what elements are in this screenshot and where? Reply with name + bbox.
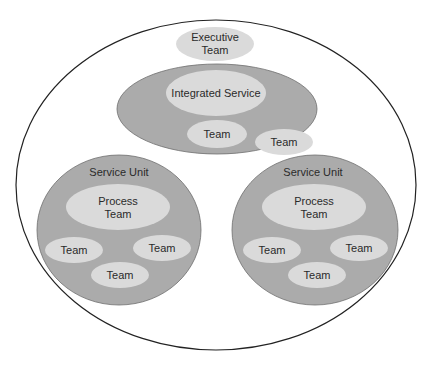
integrated-team-overlap-label: Team (271, 136, 298, 148)
service-unit-left-label: Service Unit (89, 166, 148, 178)
process-team-left-line2: Team (105, 208, 132, 220)
process-team-right-line1: Process (294, 195, 334, 207)
team-left-3-label: Team (107, 269, 134, 281)
team-left-2-label: Team (149, 242, 176, 254)
process-team-left (66, 184, 170, 230)
team-right-1-label: Team (259, 244, 286, 256)
process-team-right-line2: Team (301, 208, 328, 220)
team-right-2-label: Team (346, 242, 373, 254)
executive-team: Executive Team (176, 27, 254, 61)
integrated-team-inner-label: Team (204, 128, 231, 140)
team-right-3-label: Team (304, 269, 331, 281)
process-team-right (262, 184, 366, 230)
executive-team-label-line2: Team (202, 44, 229, 56)
integrated-service-label: Integrated Service (171, 87, 260, 99)
executive-team-label-line1: Executive (191, 31, 239, 43)
integrated-service-group: Integrated Service Team Team (117, 64, 317, 155)
service-unit-right-label: Service Unit (283, 166, 342, 178)
organization-diagram: Executive Team Integrated Service Team T… (0, 0, 430, 368)
process-team-left-line1: Process (98, 195, 138, 207)
service-unit-left: Service Unit Process Team Team Team Team (37, 155, 201, 305)
team-left-1-label: Team (61, 244, 88, 256)
service-unit-right: Service Unit Process Team Team Team Team (232, 155, 398, 305)
